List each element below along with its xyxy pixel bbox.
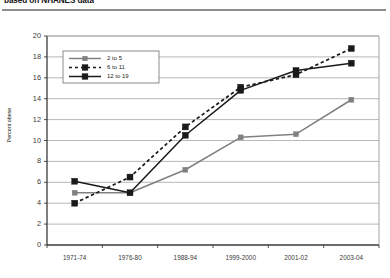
legend-swatch-marker	[83, 56, 88, 61]
legend-entry-label: 2 to 5	[107, 55, 122, 61]
legend-entry-label: 6 to 11	[107, 64, 125, 70]
y-tick-label: 14	[19, 94, 41, 103]
figure-container: based on NHANES data Percent obese 02468…	[0, 0, 390, 278]
y-tick-label: 0	[19, 240, 41, 249]
data-point-marker	[293, 67, 299, 73]
y-axis-title: Percent obese	[6, 95, 12, 155]
data-point-marker	[72, 190, 77, 195]
y-tick-label: 4	[19, 198, 41, 207]
x-tick-label: 2003-04	[319, 254, 383, 261]
data-point-marker	[127, 190, 133, 196]
data-point-marker	[72, 178, 78, 184]
y-tick-label: 20	[19, 31, 41, 40]
data-point-marker	[349, 97, 354, 102]
data-point-marker	[294, 132, 299, 137]
data-point-marker	[127, 174, 133, 180]
y-tick-label: 16	[19, 73, 41, 82]
y-tick-label: 6	[19, 177, 41, 186]
y-tick-label: 12	[19, 115, 41, 124]
data-point-marker	[182, 132, 188, 138]
line-chart	[0, 0, 390, 278]
data-point-marker	[238, 135, 243, 140]
y-tick-label: 10	[19, 136, 41, 145]
data-point-marker	[238, 87, 244, 93]
data-point-marker	[348, 60, 354, 66]
data-point-marker	[182, 124, 188, 130]
y-tick-label: 2	[19, 219, 41, 228]
data-point-marker	[348, 46, 354, 52]
legend-swatch-marker	[82, 74, 88, 80]
y-tick-label: 8	[19, 156, 41, 165]
legend-entry-label: 12 to 19	[107, 73, 129, 79]
data-point-marker	[72, 200, 78, 206]
legend-swatch-marker	[82, 65, 88, 71]
y-tick-label: 18	[19, 52, 41, 61]
data-point-marker	[183, 167, 188, 172]
